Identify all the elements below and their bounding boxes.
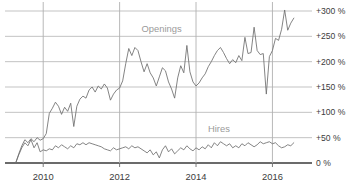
series-annotations: OpeningsHires (142, 23, 231, 133)
line-chart: 0 %+50 %+100 %+150 %+200 %+250 %+300 % 2… (0, 0, 353, 192)
x-axis-labels: 2010201220142016 (33, 171, 283, 182)
chart-container: 0 %+50 %+100 %+150 %+200 %+250 %+300 % 2… (0, 0, 353, 192)
series-label-hires: Hires (208, 123, 230, 134)
y-axis-tick-label: 0 % (316, 158, 331, 168)
x-axis-tick-label: 2014 (186, 171, 207, 182)
x-axis-tick-label: 2012 (109, 171, 130, 182)
y-axis-tick-label: +250 % (316, 31, 346, 41)
x-axis-tick-label: 2016 (262, 171, 283, 182)
y-axis-tick-label: +50 % (316, 133, 341, 143)
y-axis-labels: 0 %+50 %+100 %+150 %+200 %+250 %+300 % (316, 6, 346, 168)
y-axis-tick-label: +100 % (316, 107, 346, 117)
x-axis-tick-label: 2010 (33, 171, 54, 182)
y-axis-tick-label: +200 % (316, 57, 346, 67)
y-axis-tick-label: +300 % (316, 6, 346, 16)
y-axis-tick-label: +150 % (316, 82, 346, 92)
series-line-hires (16, 140, 294, 163)
series-label-openings: Openings (142, 23, 182, 34)
